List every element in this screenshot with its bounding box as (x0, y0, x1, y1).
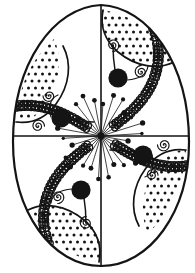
black-disk-left (51, 108, 70, 127)
black-disk-bottom-left (71, 180, 90, 199)
starburst-tip-dot (101, 102, 106, 107)
starburst-tip-dot (111, 162, 116, 167)
starburst-tip-dot (68, 164, 73, 169)
starburst-tip-dot (130, 116, 134, 120)
starburst-tip-dot (70, 142, 75, 147)
starburst-tip-dot (89, 166, 94, 171)
starburst-tip-dot (74, 102, 78, 106)
starburst-tip-dot (81, 94, 86, 99)
starburst-tip-dot (122, 110, 127, 115)
starburst-tip-dot (92, 98, 97, 103)
starburst-tip-dot (111, 93, 116, 98)
starburst-tip-dot (140, 132, 143, 135)
starburst-tip-dot (122, 163, 126, 167)
starburst-tip-dot (76, 116, 81, 121)
starburst-tip-dot (106, 175, 111, 180)
starburst-tip-dot (96, 177, 101, 182)
starburst-tip-dot (121, 97, 125, 101)
starburst-tip-dot (125, 138, 130, 143)
black-disk-right (133, 145, 152, 164)
starburst-tip-dot (140, 120, 145, 125)
starburst-tip-dot (64, 156, 68, 160)
starburst-tip-dot (62, 137, 65, 140)
starburst-tip-dot (81, 164, 85, 168)
easter-egg-artwork (0, 0, 195, 273)
egg-illustration-canvas (0, 0, 195, 273)
black-disk-top-right (108, 68, 127, 87)
